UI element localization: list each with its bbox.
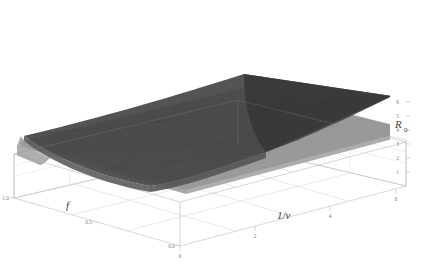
axis-title-R0-main: R bbox=[394, 118, 402, 130]
tick-f-1: 0.5 bbox=[85, 219, 92, 225]
tick-R0-2: 2 bbox=[396, 155, 399, 161]
tick-R0-1: 1 bbox=[396, 169, 399, 175]
tick-f-0: 1.0 bbox=[2, 195, 9, 201]
axis-title-R0-subscript: 0 bbox=[404, 126, 408, 134]
tick-invv-3: 6 bbox=[395, 196, 398, 202]
surface-plot-figure: 1.0 0.5 0.0 f 0 2 4 6 1/v bbox=[0, 0, 426, 277]
tick-R0-6: 6 bbox=[396, 99, 399, 105]
plot-canvas: 1.0 0.5 0.0 f 0 2 4 6 1/v bbox=[0, 0, 426, 277]
axis-f-ticks: 1.0 0.5 0.0 bbox=[2, 195, 180, 249]
tick-invv-2: 4 bbox=[329, 213, 332, 219]
tick-invv-1: 2 bbox=[254, 233, 257, 239]
tick-invv-0: 0 bbox=[179, 253, 182, 259]
tick-f-2: 0.0 bbox=[168, 243, 175, 249]
axis-title-inv-v: 1/v bbox=[277, 209, 291, 221]
tick-R0-3: 3 bbox=[396, 141, 399, 147]
axis-R0-ticks: 1 2 3 4 5 6 bbox=[396, 99, 410, 175]
axis-title-f: f bbox=[66, 199, 71, 211]
